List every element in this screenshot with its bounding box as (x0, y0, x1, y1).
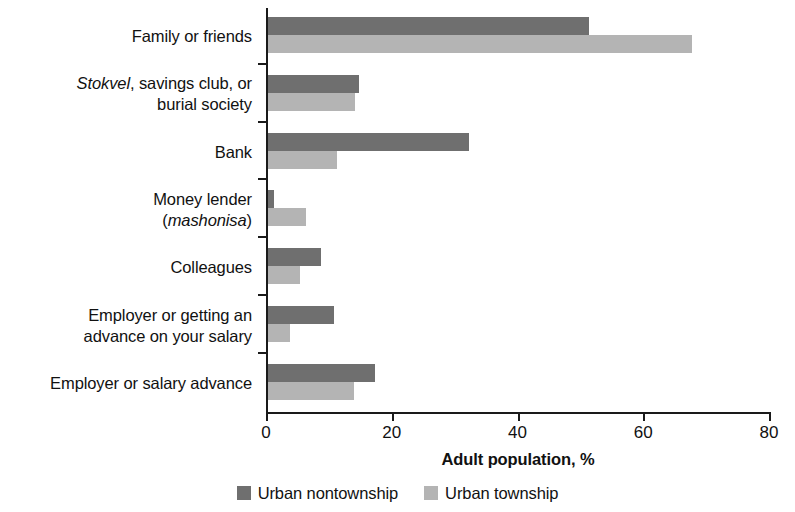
bar-urban-nontownship-family-or-friends (268, 17, 589, 35)
bar-urban-nontownship-employer-or-salary-advance (268, 364, 375, 382)
bar-group-bank (268, 133, 469, 169)
category-label-money-lender-mashonisa: Money lender(mashonisa) (0, 189, 252, 231)
chart-category-row: Employer or getting anadvance on your sa… (0, 297, 795, 355)
category-label-colleagues: Colleagues (0, 257, 252, 278)
x-axis-tick-label-0: 0 (236, 423, 296, 443)
chart-category-row: Money lender(mashonisa) (0, 181, 795, 239)
bar-urban-township-employer-or-salary-advance (268, 382, 354, 400)
x-axis-tick-label-60: 60 (613, 423, 673, 443)
chart-category-row: Employer or salary advance (0, 355, 795, 413)
x-axis-tick-0 (266, 412, 268, 421)
bar-urban-nontownship-money-lender-mashonisa (268, 190, 274, 208)
bar-group-money-lender-mashonisa (268, 190, 306, 226)
bar-chart: Family or friendsStokvel, savings club, … (0, 0, 795, 512)
x-axis-tick-80 (769, 412, 771, 421)
chart-category-row: Colleagues (0, 239, 795, 297)
x-axis-tick-label-40: 40 (488, 423, 548, 443)
x-axis-tick-20 (392, 412, 394, 421)
bar-group-colleagues (268, 248, 321, 284)
chart-category-row: Family or friends (0, 8, 795, 66)
category-label-family-or-friends: Family or friends (0, 26, 252, 47)
bar-urban-nontownship-stokvel-savings-club-burial-society (268, 75, 359, 93)
bar-urban-township-money-lender-mashonisa (268, 208, 306, 226)
bar-urban-nontownship-bank (268, 133, 469, 151)
chart-category-row: Stokvel, savings club, orburial society (0, 66, 795, 124)
bar-urban-township-stokvel-savings-club-burial-society (268, 93, 355, 111)
x-axis-tick-40 (518, 412, 520, 421)
legend-item-urban-township[interactable]: Urban township (424, 484, 558, 502)
x-axis-title: Adult population, % (266, 450, 770, 469)
x-axis-tick-label-20: 20 (362, 423, 422, 443)
category-label-stokvel-savings-club-burial-society: Stokvel, savings club, orburial society (0, 73, 252, 115)
bar-urban-township-bank (268, 151, 337, 169)
legend-label: Urban township (445, 484, 558, 502)
bar-group-employer-or-getting-an-advance-on-your-salary (268, 306, 334, 342)
bar-urban-township-employer-or-getting-an-advance-on-your-salary (268, 324, 290, 342)
category-label-bank: Bank (0, 142, 252, 163)
bar-group-family-or-friends (268, 17, 692, 53)
bar-group-stokvel-savings-club-burial-society (268, 75, 359, 111)
legend-swatch-icon (237, 486, 251, 500)
x-axis-tick-60 (643, 412, 645, 421)
legend-swatch-icon (424, 486, 438, 500)
bar-group-employer-or-salary-advance (268, 364, 375, 400)
category-label-employer-or-salary-advance: Employer or salary advance (0, 373, 252, 394)
category-label-employer-or-getting-an-advance-on-your-salary: Employer or getting anadvance on your sa… (0, 305, 252, 347)
bar-urban-nontownship-colleagues (268, 248, 321, 266)
bar-urban-township-family-or-friends (268, 35, 692, 53)
legend-item-urban-nontownship[interactable]: Urban nontownship (237, 484, 398, 502)
x-axis-tick-label-80: 80 (739, 423, 795, 443)
bar-urban-township-colleagues (268, 266, 300, 284)
chart-legend: Urban nontownshipUrban township (0, 484, 795, 502)
bar-urban-nontownship-employer-or-getting-an-advance-on-your-salary (268, 306, 334, 324)
chart-category-row: Bank (0, 124, 795, 182)
legend-label: Urban nontownship (258, 484, 398, 502)
